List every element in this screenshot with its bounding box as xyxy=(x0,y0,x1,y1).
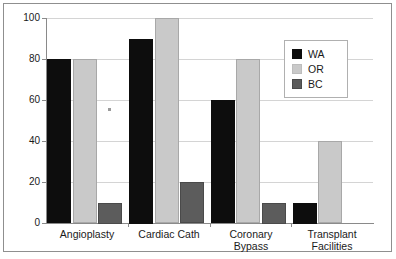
bar-wa-0 xyxy=(47,59,71,223)
legend-swatch-icon xyxy=(292,49,302,59)
x-tick-label-line: Bypass xyxy=(210,240,292,252)
bar-bc-2 xyxy=(262,203,286,224)
y-tick-label: 100 xyxy=(6,13,40,23)
x-tick-label-line: Angioplasty xyxy=(46,228,128,240)
bar-wa-2 xyxy=(211,100,235,223)
legend-label: BC xyxy=(308,79,323,90)
bar-or-3 xyxy=(318,141,342,223)
y-tick-label-wrap: 0 xyxy=(4,218,40,228)
chart-legend: WAORBC xyxy=(284,40,348,98)
x-tick-label-line: Facilities xyxy=(291,240,373,252)
legend-label: WA xyxy=(308,49,325,60)
y-tick-label-wrap: 60 xyxy=(4,95,40,105)
bar-wa-3 xyxy=(293,203,317,224)
y-tick-label: 20 xyxy=(6,177,40,187)
legend-swatch-icon xyxy=(292,79,302,89)
bar-or-2 xyxy=(236,59,260,223)
chart-screenshot: 020406080100 AngioplastyCardiac CathCoro… xyxy=(0,0,396,259)
scan-artifact-dot xyxy=(108,108,111,111)
bar-wa-1 xyxy=(129,39,153,224)
legend-swatch-icon xyxy=(292,64,302,74)
y-tick-label-wrap: 100 xyxy=(4,13,40,23)
x-group-tick xyxy=(210,223,211,227)
gridline xyxy=(46,18,373,19)
legend-item-bc: BC xyxy=(292,78,323,90)
x-tick-label-2: CoronaryBypass xyxy=(210,228,292,252)
bar-or-1 xyxy=(155,18,179,223)
x-tick-label-line: Cardiac Cath xyxy=(128,228,210,240)
x-tick-label-3: TransplantFacilities xyxy=(291,228,373,252)
y-tick-label: 60 xyxy=(6,95,40,105)
bar-bc-1 xyxy=(180,182,204,223)
y-tick-label-wrap: 80 xyxy=(4,54,40,64)
x-tick-label-line: Coronary xyxy=(210,228,292,240)
y-tick-label: 0 xyxy=(6,218,40,228)
bar-bc-0 xyxy=(98,203,122,224)
bar-or-0 xyxy=(73,59,97,223)
x-group-tick xyxy=(291,223,292,227)
x-tick-label-line: Transplant xyxy=(291,228,373,240)
y-tick-label-wrap: 20 xyxy=(4,177,40,187)
legend-label: OR xyxy=(308,64,324,75)
legend-item-wa: WA xyxy=(292,48,325,60)
y-tick-label: 80 xyxy=(6,54,40,64)
chart-frame: 020406080100 AngioplastyCardiac CathCoro… xyxy=(3,3,392,252)
x-tick-label-1: Cardiac Cath xyxy=(128,228,210,240)
y-tick-label: 40 xyxy=(6,136,40,146)
y-tick-label-wrap: 40 xyxy=(4,136,40,146)
legend-item-or: OR xyxy=(292,63,324,75)
x-tick-label-0: Angioplasty xyxy=(46,228,128,240)
